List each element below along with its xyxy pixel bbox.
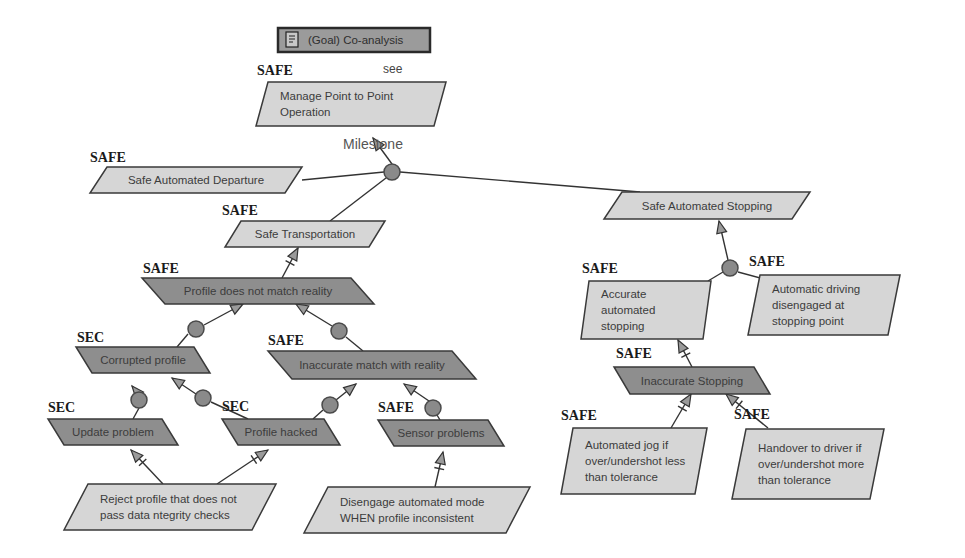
arrowhead-icon bbox=[726, 394, 738, 405]
link-2 bbox=[400, 172, 640, 192]
arrowhead-icon bbox=[678, 340, 688, 353]
node-label: Accurate bbox=[601, 288, 646, 300]
link-23 bbox=[678, 340, 692, 367]
category-tag: SAFE bbox=[143, 261, 179, 276]
node-label: Manage Point to Point bbox=[280, 90, 394, 102]
link-13 bbox=[133, 408, 139, 419]
node-inaccurate_stop[interactable]: Inaccurate StoppingSAFE bbox=[614, 346, 770, 394]
arrowhead-icon bbox=[172, 378, 185, 389]
refinement-junction-stop_j[interactable] bbox=[722, 260, 738, 276]
arrowhead-icon bbox=[296, 304, 309, 315]
node-profile_mismatch[interactable]: Profile does not match realitySAFE bbox=[142, 261, 374, 304]
node-handover[interactable]: Handover to driver ifover/undershot more… bbox=[732, 407, 884, 499]
node-label: over/undershot more bbox=[758, 458, 864, 470]
node-label: Automatic driving bbox=[772, 283, 860, 295]
node-label: Safe Transportation bbox=[255, 228, 355, 240]
category-tag: SAFE bbox=[257, 63, 293, 78]
link-18 bbox=[404, 384, 429, 401]
arrowhead-icon bbox=[344, 384, 356, 395]
link-20 bbox=[131, 450, 163, 484]
node-label: stopping bbox=[601, 320, 644, 332]
node-label: Handover to driver if bbox=[758, 442, 862, 454]
arrowhead-icon bbox=[717, 221, 727, 234]
node-label: Automated jog if bbox=[585, 439, 669, 451]
document-icon bbox=[286, 32, 298, 47]
arrowhead-icon bbox=[404, 384, 417, 395]
refinement-junction-cp_right_j[interactable] bbox=[195, 390, 211, 406]
category-tag: SEC bbox=[222, 399, 249, 414]
category-tag: SAFE bbox=[616, 346, 652, 361]
category-tag: SAFE bbox=[378, 400, 414, 415]
node-label: WHEN profile inconsistent bbox=[340, 512, 474, 524]
link-11 bbox=[346, 337, 363, 351]
node-label: automated bbox=[601, 304, 655, 316]
link-14 bbox=[172, 378, 196, 394]
node-label: over/undershot less bbox=[585, 455, 686, 467]
node-label: than tolerance bbox=[758, 474, 831, 486]
node-reject[interactable]: Reject profile that does notpass data nt… bbox=[64, 484, 276, 530]
node-label: Safe Automated Departure bbox=[128, 174, 264, 186]
header-title: (Goal) Co-analysis bbox=[308, 34, 403, 46]
node-label: Sensor problems bbox=[398, 427, 485, 439]
link-9 bbox=[177, 334, 188, 347]
node-update[interactable]: Update problemSEC bbox=[48, 400, 178, 445]
category-tag: SEC bbox=[48, 400, 75, 415]
node-transport[interactable]: Safe TransportationSAFE bbox=[222, 203, 385, 247]
link-4 bbox=[717, 221, 728, 260]
node-label: Safe Automated Stopping bbox=[642, 200, 772, 212]
node-label: Operation bbox=[280, 106, 331, 118]
link-22 bbox=[434, 452, 445, 487]
link-7 bbox=[282, 248, 298, 278]
link-17 bbox=[313, 410, 323, 419]
node-label: Update problem bbox=[72, 426, 154, 438]
link-21 bbox=[217, 450, 268, 484]
milestone-label: Milestone bbox=[343, 136, 403, 152]
goal-shape[interactable] bbox=[256, 82, 446, 126]
node-stopping[interactable]: Safe Automated Stopping bbox=[604, 192, 810, 219]
category-tag: SAFE bbox=[561, 408, 597, 423]
goal-shape[interactable] bbox=[64, 484, 276, 530]
arrowhead-icon bbox=[255, 450, 268, 461]
link-5 bbox=[708, 272, 723, 281]
refinement-junction-pm_right_j[interactable] bbox=[331, 323, 347, 339]
node-label: stopping point bbox=[772, 315, 844, 327]
refinement-junction-pm_left_j[interactable] bbox=[188, 321, 204, 337]
refinement-junction-im_right_j[interactable] bbox=[425, 400, 441, 416]
node-accurate[interactable]: AccurateautomatedstoppingSAFE bbox=[581, 261, 711, 339]
refinement-junction-milestone_j[interactable] bbox=[384, 164, 400, 180]
node-manage[interactable]: Manage Point to PointOperationSAFE bbox=[256, 63, 446, 126]
node-auto_disengaged[interactable]: Automatic drivingdisengaged atstopping p… bbox=[748, 254, 900, 335]
refinement-junction-im_left_j[interactable] bbox=[322, 397, 338, 413]
category-tag: SEC bbox=[77, 330, 104, 345]
category-tag: SAFE bbox=[582, 261, 618, 276]
category-tag: SAFE bbox=[734, 407, 770, 422]
node-label: pass data ntegrity checks bbox=[100, 509, 230, 521]
category-tag: SAFE bbox=[268, 333, 304, 348]
arrowhead-icon bbox=[288, 248, 298, 261]
link-10 bbox=[296, 304, 332, 326]
category-tag: SAFE bbox=[222, 203, 258, 218]
node-label: Disengage automated mode bbox=[340, 496, 485, 508]
node-label: Reject profile that does not bbox=[100, 493, 238, 505]
see-label: see bbox=[383, 62, 403, 76]
node-inaccurate_match[interactable]: Inaccurate match with realitySAFE bbox=[268, 333, 476, 379]
category-tag: SAFE bbox=[749, 254, 785, 269]
link-1 bbox=[302, 172, 384, 180]
node-label: Inaccurate Stopping bbox=[641, 375, 743, 387]
node-corrupted[interactable]: Corrupted profileSEC bbox=[76, 330, 210, 373]
node-label: Profile hacked bbox=[245, 426, 318, 438]
diagram-canvas: (Goal) Co-analysis see Manage Point to P… bbox=[0, 0, 965, 558]
arrowhead-icon bbox=[681, 394, 691, 407]
node-label: Inaccurate match with reality bbox=[299, 359, 445, 371]
goal-shape[interactable] bbox=[304, 487, 530, 533]
category-tag: SAFE bbox=[90, 150, 126, 165]
nodes-layer: Manage Point to PointOperationSAFESafe A… bbox=[48, 63, 900, 533]
refinement-junction-cp_left_j[interactable] bbox=[131, 392, 147, 408]
node-jog[interactable]: Automated jog ifover/undershot lessthan … bbox=[561, 408, 707, 494]
goal-co-analysis-header[interactable]: (Goal) Co-analysis bbox=[278, 28, 430, 52]
node-disengage[interactable]: Disengage automated modeWHEN profile inc… bbox=[304, 487, 530, 533]
link-3 bbox=[330, 178, 386, 221]
node-label: Profile does not match reality bbox=[184, 285, 333, 297]
node-label: Corrupted profile bbox=[100, 354, 186, 366]
node-departure[interactable]: Safe Automated DepartureSAFE bbox=[90, 150, 302, 193]
